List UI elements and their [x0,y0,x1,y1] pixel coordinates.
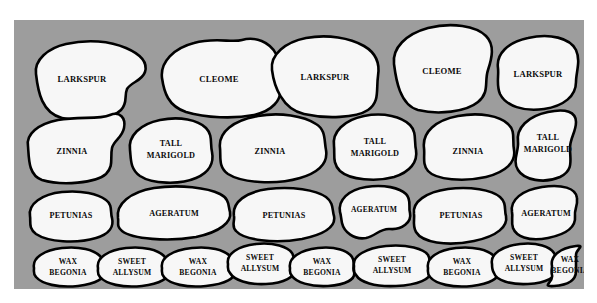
diagram-canvas: LARKSPUR CLEOME LARKSPUR CLEOME LARKSPUR [0,0,597,303]
bed-group-front-row-4[interactable]: SWEET ALLYSUM [228,244,294,285]
bed-group-third-row-3[interactable]: PETUNIAS [233,188,334,241]
bed-group-back-row-3[interactable]: LARKSPUR [272,36,379,117]
bed-label: WAX [189,257,208,266]
bed-label: MARIGOLD [351,149,399,158]
bed-label: WAX [313,257,332,266]
bed-label: WAX [453,257,472,266]
bed-label: BEGONIA [49,268,87,277]
bed-label: AGERATUM [521,209,571,218]
bed-label: BEGONIA [551,266,584,275]
bed-label: BEGONIA [443,268,481,277]
bed-shape[interactable] [290,248,354,287]
bed-label: PETUNIAS [439,211,482,220]
bed-label: ZINNIA [57,147,88,156]
bed-label: CLEOME [422,66,461,76]
bed-label: WAX [59,257,78,266]
bed-label: BEGONIA [303,268,341,277]
bed-label: LARKSPUR [58,74,107,84]
bed-group-front-row-7[interactable]: WAX BEGONIA [428,247,498,286]
bed-group-second-row-3[interactable]: ZINNIA [220,114,326,182]
garden-plan-panel: LARKSPUR CLEOME LARKSPUR CLEOME LARKSPUR [14,20,584,289]
bed-label: AGERATUM [149,209,199,218]
bed-label: TALL [537,133,560,142]
bed-shape[interactable] [98,247,168,286]
bed-group-front-row-2[interactable]: SWEET ALLYSUM [98,247,168,286]
bed-label: SWEET [378,255,406,264]
bed-label: ALLYSUM [113,268,152,277]
bed-group-back-row-4[interactable]: CLEOME [394,25,492,112]
bed-label: TALL [160,139,183,148]
bed-label: SWEET [246,253,274,262]
bed-group-third-row-2[interactable]: AGERATUM [118,186,230,239]
bed-group-front-row-5[interactable]: WAX BEGONIA [290,248,354,287]
bed-group-third-row-6[interactable]: AGERATUM [512,186,577,239]
bed-label: ZINNIA [453,147,484,156]
garden-plan-svg: LARKSPUR CLEOME LARKSPUR CLEOME LARKSPUR [14,20,584,289]
bed-group-second-row-5[interactable]: ZINNIA [424,114,514,179]
bed-shape[interactable] [34,247,104,286]
bed-group-front-row-3[interactable]: WAX BEGONIA [162,247,234,286]
bed-label: AGERATUM [351,205,397,214]
bed-group-front-row-8[interactable]: SWEET ALLYSUM [492,244,556,285]
bed-label: MARIGOLD [147,151,195,160]
bed-group-third-row-5[interactable]: PETUNIAS [414,188,506,244]
bed-group-front-row-1[interactable]: WAX BEGONIA [34,247,104,286]
bed-label: ALLYSUM [373,266,412,275]
bed-label: MARIGOLD [524,145,572,154]
bed-shape[interactable] [334,115,417,180]
bed-label: SWEET [118,257,146,266]
bed-group-second-row-2[interactable]: TALL MARIGOLD [130,118,213,182]
bed-group-back-row-5[interactable]: LARKSPUR [498,36,578,110]
bed-label: CLEOME [199,74,238,84]
bed-label: ALLYSUM [505,264,544,273]
bed-label: PETUNIAS [49,211,92,220]
bed-label: TALL [364,137,387,146]
bed-label: PETUNIAS [262,211,305,220]
bed-group-second-row-6[interactable]: TALL MARIGOLD [516,110,576,180]
bed-shape[interactable] [162,247,234,286]
bed-label: LARKSPUR [301,72,350,82]
bed-shape[interactable] [428,247,498,286]
bed-label: ALLYSUM [241,264,280,273]
bed-group-second-row-4[interactable]: TALL MARIGOLD [334,115,417,180]
bed-group-third-row-4[interactable]: AGERATUM [340,186,411,238]
bed-label: SWEET [510,253,538,262]
bed-label: WAX [561,255,580,264]
bed-label: ZINNIA [255,147,286,156]
bed-group-second-row-1[interactable]: ZINNIA [28,114,125,183]
bed-group-back-row-2[interactable]: CLEOME [162,39,280,118]
bed-label: BEGONIA [179,268,217,277]
bed-label: LARKSPUR [514,69,563,79]
bed-group-back-row-1[interactable]: LARKSPUR [36,41,146,120]
bed-group-third-row-1[interactable]: PETUNIAS [30,191,113,241]
bed-group-front-row-6[interactable]: SWEET ALLYSUM [354,246,430,287]
